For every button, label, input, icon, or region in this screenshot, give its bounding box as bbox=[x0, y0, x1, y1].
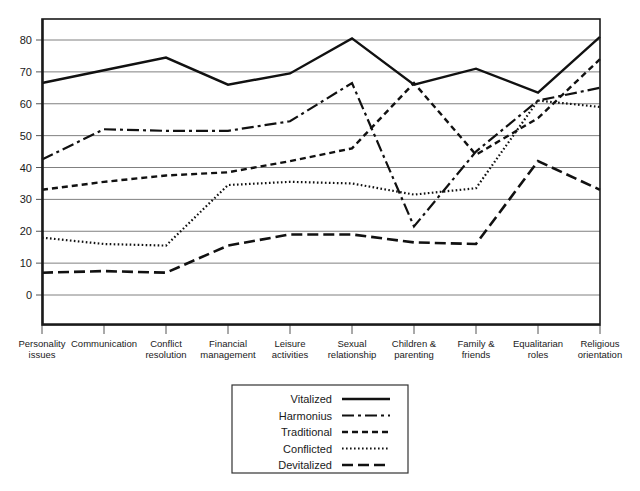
legend-label-conflicted: Conflicted bbox=[283, 443, 332, 455]
chart-figure: 01020304050607080 PersonalityissuesCommu… bbox=[0, 0, 640, 491]
x-axis-label-2: Conflictresolution bbox=[145, 338, 186, 360]
y-tick-label-0: 0 bbox=[26, 289, 32, 301]
x-axis-label-4: Leisureactivities bbox=[272, 338, 309, 360]
y-tick-label-40: 40 bbox=[20, 162, 32, 174]
y-tick-label-20: 20 bbox=[20, 225, 32, 237]
legend-label-devitalized: Devitalized bbox=[278, 459, 332, 471]
y-tick-label-30: 30 bbox=[20, 193, 32, 205]
y-tick-label-10: 10 bbox=[20, 257, 32, 269]
legend-label-vitalized: Vitalized bbox=[291, 393, 332, 405]
x-axis-label-7: Family &friends bbox=[458, 338, 496, 360]
x-axis-label-1: Communication bbox=[71, 338, 137, 349]
y-axis-tick-labels-group: 01020304050607080 bbox=[20, 34, 32, 301]
y-tick-label-60: 60 bbox=[20, 98, 32, 110]
line-chart-svg: 01020304050607080 PersonalityissuesCommu… bbox=[0, 0, 640, 491]
x-axis-label-6: Children &parenting bbox=[392, 338, 437, 360]
y-tick-label-70: 70 bbox=[20, 66, 32, 78]
x-axis-label-9: Religiousorientation bbox=[578, 338, 622, 360]
y-tick-label-50: 50 bbox=[20, 130, 32, 142]
legend: VitalizedHarmoniusTraditionalConflictedD… bbox=[232, 385, 408, 473]
y-tick-label-80: 80 bbox=[20, 34, 32, 46]
legend-label-traditional: Traditional bbox=[281, 426, 332, 438]
legend-label-harmonius: Harmonius bbox=[279, 410, 333, 422]
